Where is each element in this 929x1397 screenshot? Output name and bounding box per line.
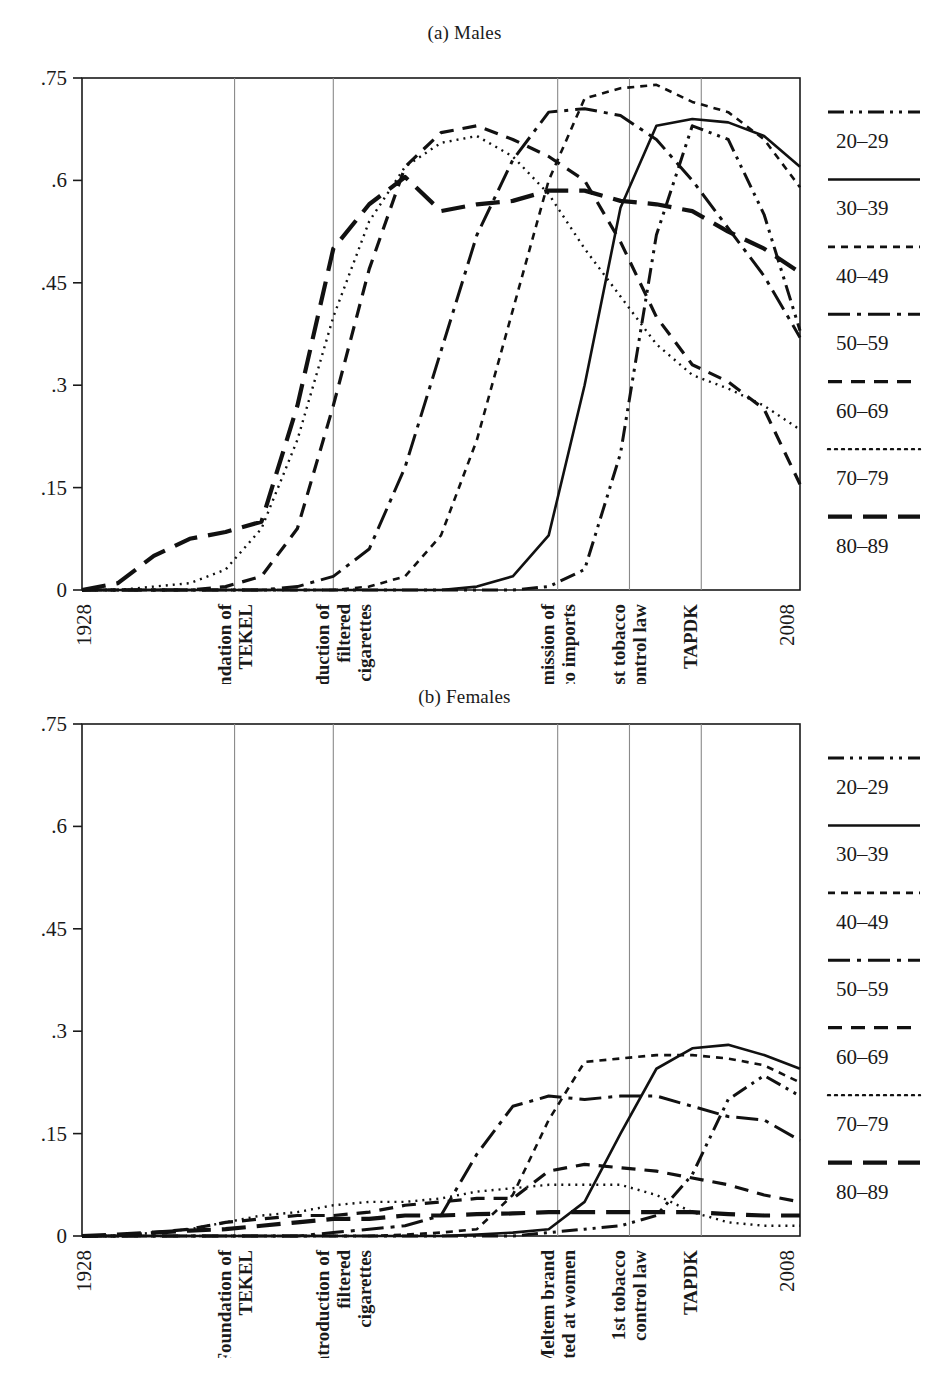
x-axis-label-start: 1928 bbox=[72, 604, 96, 646]
event-label-line: TEKEL bbox=[235, 604, 256, 669]
series-line-40-49 bbox=[82, 1055, 800, 1236]
event-label-5: TAPDK bbox=[680, 604, 701, 669]
event-label-line: cigarettes bbox=[354, 1250, 375, 1328]
event-label-line: targeted at women bbox=[558, 1250, 579, 1358]
y-tick-label: .3 bbox=[51, 373, 67, 397]
legend-label-60-69: 60–69 bbox=[836, 1045, 889, 1069]
event-label-2: Introduction offilteredcigarettes bbox=[312, 603, 375, 684]
series-line-20-29 bbox=[82, 126, 800, 590]
series-line-30-39 bbox=[82, 1045, 800, 1236]
y-tick-label: .75 bbox=[41, 66, 67, 90]
legend-label-50-59: 50–59 bbox=[836, 977, 889, 1001]
event-label-line: Introduction of bbox=[312, 603, 333, 684]
plot-area-females: 0.15.3.45.6.7519282008Foundation ofTEKEL… bbox=[0, 708, 929, 1358]
legend-label-40-49: 40–49 bbox=[836, 264, 889, 288]
series-line-80-89 bbox=[82, 1212, 800, 1236]
event-label-3: Permission oftobacco imports bbox=[537, 603, 579, 684]
event-label-line: Meltem brand bbox=[537, 1250, 558, 1358]
y-tick-label: 0 bbox=[57, 578, 68, 602]
y-tick-label: 0 bbox=[57, 1224, 68, 1248]
event-label-line: TAPDK bbox=[680, 1250, 701, 1315]
chart-svg-males: 0.15.3.45.6.7519282008Foundation ofTEKEL… bbox=[0, 44, 929, 684]
event-label-line: control law bbox=[629, 604, 650, 684]
event-label-line: cigarettes bbox=[354, 604, 375, 682]
event-label-3: Meltem brandtargeted at women bbox=[537, 1250, 579, 1358]
legend-label-30-39: 30–39 bbox=[836, 842, 889, 866]
event-label-line: Introduction of bbox=[312, 1249, 333, 1358]
event-label-line: TEKEL bbox=[235, 1250, 256, 1315]
legend-label-20-29: 20–29 bbox=[836, 775, 889, 799]
event-label-5: TAPDK bbox=[680, 1250, 701, 1315]
y-tick-label: .15 bbox=[41, 1122, 67, 1146]
series-line-80-89 bbox=[82, 177, 800, 590]
y-tick-label: .45 bbox=[41, 271, 67, 295]
panel-title-males: (a) Males bbox=[0, 22, 929, 44]
y-tick-label: .75 bbox=[41, 712, 67, 736]
x-axis-label-end: 2008 bbox=[775, 1250, 799, 1292]
legend-label-30-39: 30–39 bbox=[836, 196, 889, 220]
event-label-2: Introduction offilteredcigarettes bbox=[312, 1249, 375, 1358]
legend-label-50-59: 50–59 bbox=[836, 331, 889, 355]
event-label-line: 1st tobacco bbox=[608, 1250, 629, 1340]
legend-label-80-89: 80–89 bbox=[836, 534, 889, 558]
event-label-line: Foundation of bbox=[214, 1249, 235, 1358]
series-line-30-39 bbox=[82, 119, 800, 590]
legend-label-60-69: 60–69 bbox=[836, 399, 889, 423]
event-label-4: 1st tobaccocontrol law bbox=[608, 1250, 650, 1341]
y-tick-label: .6 bbox=[51, 814, 67, 838]
legend-label-70-79: 70–79 bbox=[836, 1112, 889, 1136]
event-label-line: tobacco imports bbox=[558, 604, 579, 684]
series-line-50-59 bbox=[82, 109, 800, 590]
panel-females: (b) Females 0.15.3.45.6.7519282008Founda… bbox=[0, 686, 929, 1358]
event-label-4: 1st tobaccocontrol law bbox=[608, 604, 650, 684]
y-tick-label: .15 bbox=[41, 476, 67, 500]
event-label-line: Foundation of bbox=[214, 603, 235, 684]
event-label-line: filtered bbox=[333, 604, 354, 663]
plot-frame bbox=[82, 724, 800, 1236]
event-label-line: control law bbox=[629, 1250, 650, 1341]
panel-title-females: (b) Females bbox=[0, 686, 929, 708]
y-tick-label: .45 bbox=[41, 917, 67, 941]
series-line-60-69 bbox=[82, 1164, 800, 1236]
plot-frame bbox=[82, 78, 800, 590]
legend-label-80-89: 80–89 bbox=[836, 1180, 889, 1204]
chart-svg-females: 0.15.3.45.6.7519282008Foundation ofTEKEL… bbox=[0, 708, 929, 1358]
plot-area-males: 0.15.3.45.6.7519282008Foundation ofTEKEL… bbox=[0, 44, 929, 684]
event-label-1: Foundation ofTEKEL bbox=[214, 1249, 256, 1358]
series-line-60-69 bbox=[82, 126, 800, 590]
event-label-line: 1st tobacco bbox=[608, 604, 629, 684]
series-line-40-49 bbox=[82, 85, 800, 590]
panel-males: (a) Males 0.15.3.45.6.7519282008Foundati… bbox=[0, 22, 929, 684]
legend-label-20-29: 20–29 bbox=[836, 129, 889, 153]
legend-label-40-49: 40–49 bbox=[836, 910, 889, 934]
event-label-line: TAPDK bbox=[680, 604, 701, 669]
x-axis-label-start: 1928 bbox=[72, 1250, 96, 1292]
event-label-line: filtered bbox=[333, 1250, 354, 1309]
y-tick-label: .6 bbox=[51, 168, 67, 192]
legend-label-70-79: 70–79 bbox=[836, 466, 889, 490]
y-tick-label: .3 bbox=[51, 1019, 67, 1043]
event-label-1: Foundation ofTEKEL bbox=[214, 603, 256, 684]
event-label-line: Permission of bbox=[537, 603, 558, 684]
x-axis-label-end: 2008 bbox=[775, 604, 799, 646]
